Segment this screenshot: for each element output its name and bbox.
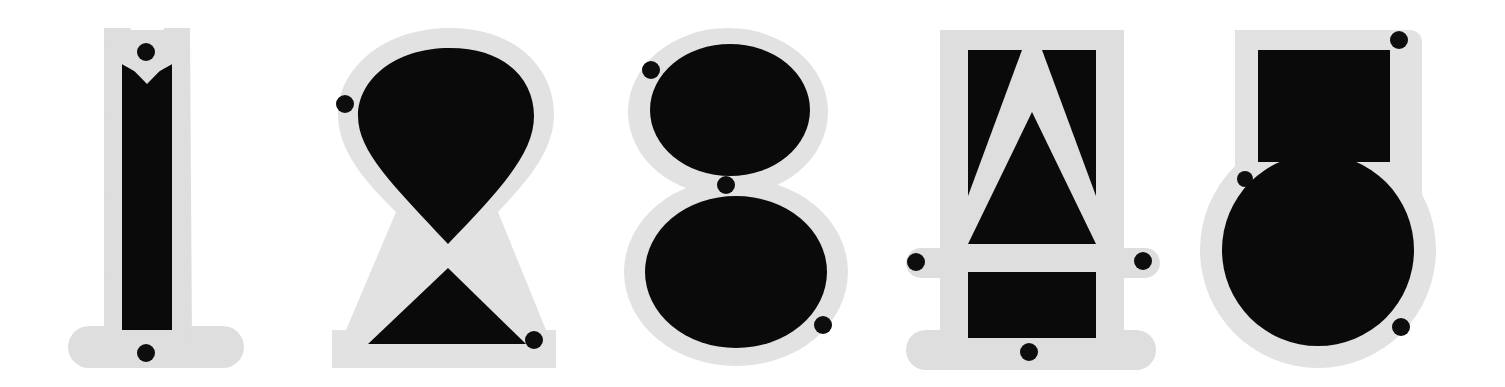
glyph-two-upper-bowl [358,48,534,244]
glyph-eight-lower-bowl [645,196,827,348]
glyph-numeral-eight[interactable] [600,0,880,387]
glyph-four-rivet-bottom[interactable] [1020,343,1038,361]
glyph-four-lower-block [968,272,1096,338]
glyph-numeral-four[interactable] [880,0,1180,387]
glyph-four-rivet-left-tab[interactable] [907,253,925,271]
glyph-one-stem [122,64,172,330]
glyph-eight-rivet-upper-left[interactable] [642,61,660,79]
glyph-four-rivet-right-tab[interactable] [1134,252,1152,270]
glyph-eight-rivet-waist[interactable] [717,176,735,194]
glyph-two-rivet-lower-right[interactable] [525,331,543,349]
glyph-one-rivet-top[interactable] [137,43,155,61]
artwork-canvas: 1 2 8 4 5 Stylized numeral plates Five d… [0,0,1505,387]
glyph-five-rivet-mid-left[interactable] [1237,171,1253,187]
glyph-eight-rivet-lower-right[interactable] [814,316,832,334]
glyph-numeral-one[interactable] [0,0,310,387]
glyph-five-rivet-top-right[interactable] [1390,31,1408,49]
glyph-five-rivet-lower-right[interactable] [1392,318,1410,336]
glyph-numeral-two[interactable] [310,0,600,387]
glyph-one-rivet-bottom[interactable] [137,344,155,362]
glyph-numeral-five[interactable] [1190,0,1490,387]
glyph-five-head-block [1258,50,1390,162]
glyph-eight-upper-bowl [650,44,810,176]
glyph-two-rivet-upper-left[interactable] [336,95,354,113]
